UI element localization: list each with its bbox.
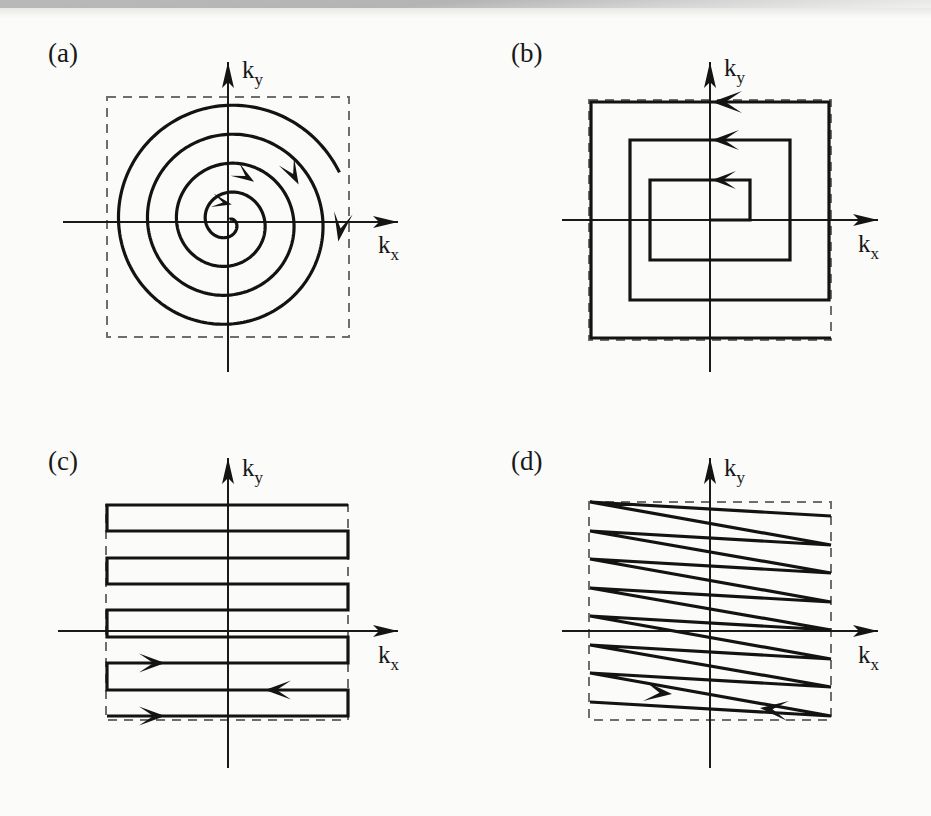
panel-a: (a) ky kx (0, 0, 466, 408)
ky-axis-label-b: ky (724, 54, 746, 87)
panel-c-label: (c) (48, 446, 78, 477)
panel-b: (b) ky kx (466, 0, 931, 408)
panel-c: (c) ky kx (0, 408, 466, 816)
ky-axis-label-c: ky (242, 454, 264, 487)
kx-axis-label-a: kx (378, 231, 400, 264)
panel-d-label: (d) (511, 446, 542, 477)
panel-a-label: (a) (48, 38, 78, 69)
panel-b-label: (b) (511, 38, 542, 69)
ky-axis-label-a: ky (242, 56, 264, 89)
kx-axis-label-b: kx (858, 230, 880, 263)
kx-axis-label-d: kx (858, 641, 880, 674)
panel-d: (d) ky kx (466, 408, 931, 816)
spiral-direction-arrows-a (211, 157, 353, 241)
figure-page: (a) ky kx (b) (0, 0, 931, 816)
kx-axis-label-c: kx (378, 641, 400, 674)
ky-axis-label-d: ky (724, 454, 746, 487)
